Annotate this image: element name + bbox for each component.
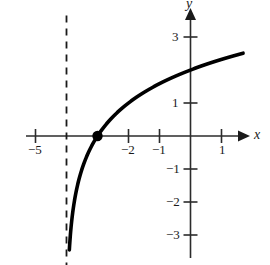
x-intercept-point <box>92 131 102 141</box>
y-tick-label-3: 3 <box>172 30 179 43</box>
x-tick-label--5: −5 <box>28 143 42 156</box>
x-tick-label--1: −1 <box>152 143 166 156</box>
y-axis-label: y <box>186 0 192 11</box>
y-tick-label--1: −1 <box>166 162 180 175</box>
y-axis <box>184 8 198 258</box>
x-axis-label: x <box>254 128 260 142</box>
plot-canvas <box>0 0 270 265</box>
y-tick-label--2: −2 <box>166 195 180 208</box>
x-axis-arrowhead <box>238 131 250 142</box>
y-tick-label-1: 1 <box>172 96 179 109</box>
x-tick-label--2: −2 <box>121 143 135 156</box>
y-tick-label--3: −3 <box>166 228 180 241</box>
x-axis <box>26 129 250 143</box>
logarithmic-function-graph: −5 −2 −1 1 3 1 −1 −2 −3 x y <box>0 0 270 265</box>
x-tick-label-1: 1 <box>219 143 226 156</box>
